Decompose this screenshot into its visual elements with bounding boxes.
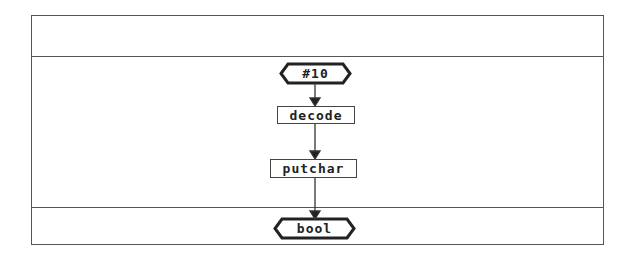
node-input-label: #10 <box>281 64 350 83</box>
node-putchar-label: putchar <box>283 161 345 176</box>
node-putchar[interactable]: putchar <box>270 159 357 178</box>
node-decode-label: decode <box>290 108 343 123</box>
arrow-head-icon <box>310 98 320 106</box>
node-decode[interactable]: decode <box>277 106 355 124</box>
arrow-head-icon <box>310 151 320 159</box>
node-output-label: bool <box>275 219 354 238</box>
